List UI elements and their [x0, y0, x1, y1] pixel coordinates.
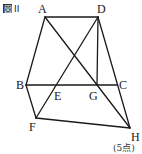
segment-BF — [26, 85, 36, 118]
segment-AB — [26, 17, 45, 85]
segment-DG — [97, 17, 98, 85]
point-label-C: C — [119, 78, 127, 92]
segment-DH — [98, 17, 130, 128]
diagram-canvas: 図 II A D B E G C F H (5点) — [0, 0, 142, 154]
figure-label-box: 図 — [4, 5, 12, 14]
points-note: (5点) — [113, 143, 135, 153]
point-label-B: B — [16, 78, 24, 92]
point-label-H: H — [131, 130, 140, 144]
geometry-diagram: 図 II A D B E G C F H (5点) — [0, 0, 142, 154]
point-label-F: F — [29, 120, 36, 134]
point-label-A: A — [38, 2, 47, 16]
point-label-E: E — [54, 89, 61, 103]
figure-label-number: II — [14, 4, 19, 14]
point-label-G: G — [89, 89, 98, 103]
segment-FH — [36, 118, 130, 128]
point-label-D: D — [97, 2, 106, 16]
